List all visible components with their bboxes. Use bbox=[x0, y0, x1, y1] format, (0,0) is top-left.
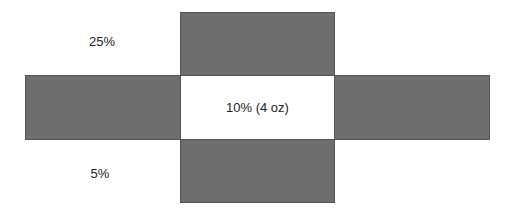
right-block bbox=[334, 75, 490, 140]
center-label: 10% (4 oz) bbox=[226, 100, 289, 115]
left-block bbox=[25, 75, 181, 140]
top-block bbox=[180, 12, 335, 76]
bottom-block bbox=[180, 139, 335, 203]
bottom-left-label: 5% bbox=[91, 166, 110, 181]
center-cell: 10% (4 oz) bbox=[181, 76, 334, 139]
diagram: 10% (4 oz) 25% 5% bbox=[0, 0, 514, 212]
top-left-label: 25% bbox=[89, 34, 115, 49]
